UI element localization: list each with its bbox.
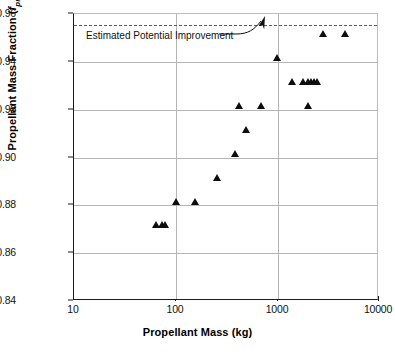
x-axis-title: Propellant Mass (kg) — [0, 326, 395, 338]
plot-area — [73, 13, 378, 300]
x-tick-label-2: 1000 — [266, 303, 289, 315]
data-point — [257, 102, 265, 109]
annotation-estimated-potential-improvement: Estimated Potential Improvement — [86, 30, 233, 41]
y-axis-title-text: Propellant Mass Fraction ( — [6, 10, 18, 150]
data-point — [161, 221, 169, 228]
x-tick-label-0: 10 — [67, 303, 78, 315]
data-point — [231, 150, 239, 157]
y-tick-label-2: 0.88 — [0, 198, 16, 210]
gridline-v-100 — [176, 14, 177, 299]
data-point — [319, 30, 327, 37]
x-tick-mark-3 — [378, 296, 379, 301]
chart-figure: Propellant Mass Fraction (fprop) 0.84 0.… — [0, 0, 395, 352]
gridline-h-0.90 — [74, 158, 377, 159]
data-point — [213, 174, 221, 181]
gridline-h-0.88 — [74, 205, 377, 206]
y-tick-label-3: 0.90 — [0, 151, 16, 163]
annotation-arrow-icon — [218, 15, 278, 41]
y-axis-title: Propellant Mass Fraction (fprop) — [6, 0, 21, 168]
y-tick-label-6: 0.96 — [0, 7, 16, 19]
data-point — [304, 102, 312, 109]
gridline-h-0.94 — [74, 62, 377, 63]
gridline-h-0.86 — [74, 253, 377, 254]
y-tick-label-4: 0.92 — [0, 103, 16, 115]
y-tick-label-5: 0.94 — [0, 55, 16, 67]
data-point — [242, 126, 250, 133]
y-tick-label-1: 0.86 — [0, 246, 16, 258]
data-point — [191, 198, 199, 205]
data-point — [288, 78, 296, 85]
data-point — [235, 102, 243, 109]
data-point — [273, 54, 281, 61]
x-tick-label-1: 100 — [167, 303, 184, 315]
x-tick-label-3: 10000 — [364, 303, 392, 315]
data-point — [313, 78, 321, 85]
data-point — [172, 198, 180, 205]
gridline-h-0.92 — [74, 110, 377, 111]
y-tick-label-0: 0.84 — [0, 294, 16, 306]
data-point — [341, 30, 349, 37]
